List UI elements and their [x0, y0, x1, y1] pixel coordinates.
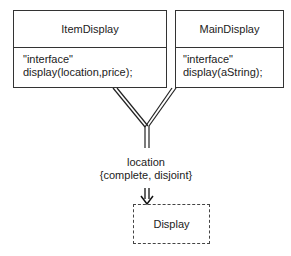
class-display: Display — [133, 204, 210, 244]
operation: display(aString); — [183, 66, 283, 79]
class-name: Display — [153, 218, 189, 230]
stereotype: "interface" — [183, 53, 283, 66]
class-main-display: MainDisplay "interface" display(aString)… — [175, 10, 284, 88]
class-name: ItemDisplay — [14, 11, 166, 48]
class-name: MainDisplay — [176, 11, 283, 48]
discriminator-label: location — [46, 156, 246, 169]
constraint-label: {complete, disjoint} — [46, 169, 246, 182]
operation: display(location,price); — [23, 66, 166, 79]
class-item-display: ItemDisplay "interface" display(location… — [13, 10, 167, 88]
stereotype: "interface" — [23, 53, 166, 66]
